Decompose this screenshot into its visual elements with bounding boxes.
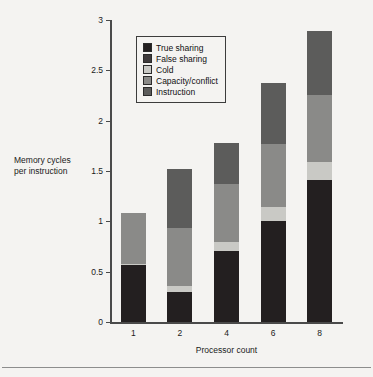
bar-segment (167, 169, 192, 228)
y-axis-tick (106, 20, 110, 21)
legend-swatch-icon (143, 54, 152, 63)
legend-item-label: Instruction (156, 87, 195, 97)
bar-stack (261, 83, 286, 322)
legend-item: True sharing (143, 42, 218, 53)
legend-swatch-icon (143, 43, 152, 52)
page-background: Memory cycles per instruction 00.511.522… (0, 0, 373, 377)
legend-item-label: True sharing (156, 43, 203, 53)
y-axis-tick (106, 272, 110, 273)
legend-item: Instruction (143, 86, 218, 97)
bar-segment (261, 83, 286, 143)
x-axis-line (110, 322, 343, 324)
bar-segment (307, 95, 332, 162)
chart-figure: Memory cycles per instruction 00.511.522… (0, 0, 373, 377)
bar-segment (307, 31, 332, 94)
bar-segment (307, 180, 332, 322)
x-axis-tick-label: 6 (271, 328, 276, 338)
bar-segment (167, 228, 192, 285)
x-axis-title: Processor count (110, 345, 343, 355)
x-axis-tick-label: 8 (317, 328, 322, 338)
page-bottom-rule (2, 367, 371, 368)
y-axis-title-line-1: Memory cycles (14, 155, 104, 166)
legend-item-label: Cold (156, 65, 173, 75)
bar-segment (121, 213, 146, 263)
y-axis-tick-label: 0 (98, 317, 103, 327)
bar-segment (307, 162, 332, 180)
legend-swatch-icon (143, 65, 152, 74)
y-axis-tick-label: 3 (98, 15, 103, 25)
bar-segment (214, 251, 239, 322)
y-axis-tick-label: 2 (98, 116, 103, 126)
y-axis-tick (106, 221, 110, 222)
legend-swatch-icon (143, 87, 152, 96)
bar-stack (121, 213, 146, 322)
bar-stack (167, 169, 192, 322)
legend-item: False sharing (143, 53, 218, 64)
x-axis-tick-label: 2 (178, 328, 183, 338)
bar-segment (214, 242, 239, 250)
bar-segment (261, 144, 286, 207)
bar-segment (261, 207, 286, 221)
y-axis-tick-label: 0.5 (91, 267, 103, 277)
legend-item: Capacity/conflict (143, 75, 218, 86)
legend-item-label: False sharing (156, 54, 207, 64)
y-axis-tick (106, 171, 110, 172)
y-axis-tick (106, 121, 110, 122)
legend-item-label: Capacity/conflict (156, 76, 218, 86)
bar-stack (214, 143, 239, 322)
legend-swatch-icon (143, 76, 152, 85)
chart-legend: True sharingFalse sharingColdCapacity/co… (136, 36, 226, 103)
y-axis-tick (106, 322, 110, 323)
bar-segment (121, 265, 146, 322)
legend-item: Cold (143, 64, 218, 75)
y-axis-tick-label: 2.5 (91, 65, 103, 75)
x-axis-tick-label: 4 (224, 328, 229, 338)
bar-segment (214, 143, 239, 184)
y-axis-tick-label: 1.5 (91, 166, 103, 176)
bar-stack (307, 31, 332, 322)
bar-segment (214, 184, 239, 242)
y-axis-tick-label: 1 (98, 216, 103, 226)
bar-segment (167, 292, 192, 322)
x-axis-tick-label: 1 (131, 328, 136, 338)
y-axis-tick (106, 70, 110, 71)
bar-segment (261, 221, 286, 322)
